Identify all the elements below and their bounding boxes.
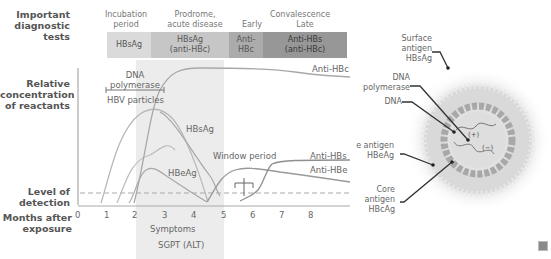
sgpt-label: SGPT (ALT) — [158, 240, 204, 250]
symptoms-label: Symptoms — [150, 224, 195, 234]
label-line: DNA — [102, 70, 168, 80]
leader-dot — [452, 130, 456, 134]
x-tick-1: 1 — [104, 210, 109, 220]
x-tick-5: 5 — [221, 210, 226, 220]
x-tick-0: 0 — [75, 210, 80, 220]
anti-hbs-curve-label: Anti-HBs — [310, 151, 347, 161]
leader-dot — [431, 163, 435, 167]
image-icon[interactable] — [538, 241, 548, 251]
label-line: polymerase — [356, 83, 410, 93]
label-line: Core antigen — [345, 185, 395, 205]
anti-hbc-curve-label: Anti-HBc — [312, 64, 349, 74]
leader-dot — [466, 138, 470, 142]
plus-strand-label: (+) — [468, 131, 480, 139]
leader-dot — [450, 160, 454, 164]
surface-antigen-leader — [432, 52, 448, 68]
virion-core-inner — [450, 112, 506, 168]
label-line: HBeAg — [350, 151, 394, 161]
x-tick-4: 4 — [191, 210, 196, 220]
x-tick-8: 8 — [308, 210, 313, 220]
x-tick-3: 3 — [162, 210, 167, 220]
dna-polymerase-virion-label: DNA polymerase — [356, 73, 410, 93]
core-antigen-label: Core antigen HBcAg — [345, 185, 395, 215]
x-tick-7: 7 — [279, 210, 284, 220]
hbv-particles-label: HBV particles — [107, 95, 164, 105]
hbsag-curve-label: HBsAg — [186, 124, 214, 134]
label-line: Surface antigen — [370, 34, 432, 54]
label-line: HBcAg — [345, 205, 395, 215]
hbeag-curve-label: HBeAg — [168, 168, 197, 178]
anti-hbe-curve-label: Anti-HBe — [310, 165, 347, 175]
label-line: e antigen — [350, 141, 394, 151]
leader-dot — [446, 66, 450, 70]
x-tick-2: 2 — [132, 210, 137, 220]
dna-virion-label: DNA — [376, 97, 402, 107]
label-line: HBsAg — [370, 54, 432, 64]
minus-strand-label: (−) — [482, 144, 494, 152]
label-line: polymerase — [102, 80, 168, 90]
surface-antigen-label: Surface antigen HBsAg — [370, 34, 432, 64]
dna-polymerase-label: DNA polymerase — [102, 70, 168, 90]
e-antigen-label: e antigen HBeAg — [350, 141, 394, 161]
label-line: DNA — [356, 73, 410, 83]
window-period-label: Window period — [213, 151, 276, 161]
x-tick-6: 6 — [250, 210, 255, 220]
